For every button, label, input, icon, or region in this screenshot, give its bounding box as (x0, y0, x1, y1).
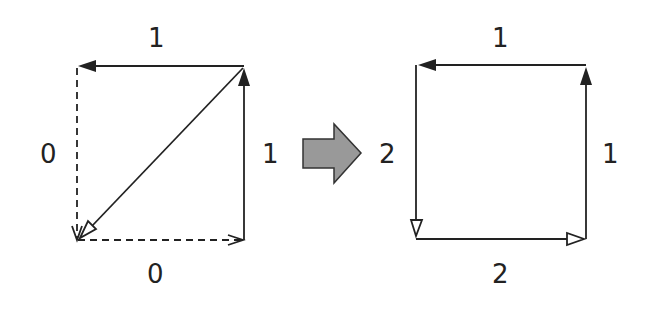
left-bottom-label: 0 (147, 259, 164, 289)
filled-arrowhead-icon (418, 59, 436, 71)
flow-diagram: 1 1 0 0 1 1 2 2 (0, 0, 649, 309)
left-graph (72, 60, 250, 245)
right-bottom-label: 2 (492, 259, 509, 289)
left-top-label: 1 (148, 23, 165, 53)
right-arrow-icon (303, 124, 361, 183)
right-top-label: 1 (492, 23, 509, 53)
filled-arrowhead-icon (78, 60, 96, 72)
filled-arrowhead-icon (580, 67, 592, 85)
left-diagonal-edge (92, 68, 243, 226)
left-right-label: 1 (262, 139, 279, 169)
left-left-label: 0 (40, 139, 57, 169)
right-left-label: 2 (379, 139, 396, 169)
right-right-label: 1 (602, 139, 619, 169)
hollow-arrowhead-icon (411, 220, 422, 236)
right-graph (411, 59, 592, 245)
hollow-arrowhead-icon (567, 233, 584, 245)
